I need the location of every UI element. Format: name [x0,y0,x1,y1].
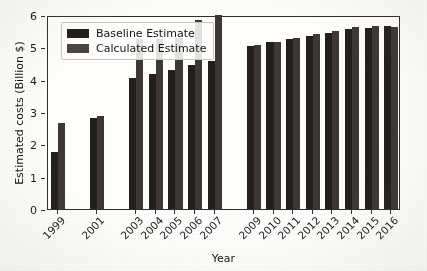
bar-2005-baseline [168,70,175,209]
y-tick-label: 3 [30,107,37,120]
bar-2004-calculated [156,39,163,209]
bar-2001-calculated [97,116,104,209]
bar-2016-baseline [384,26,391,209]
bar-2015-calculated [372,26,379,209]
bar-2009-calculated [254,45,261,209]
x-axis-title: Year [47,252,400,265]
legend-swatch-baseline-icon [67,29,89,38]
bar-2015-baseline [365,28,372,209]
plot-area: Baseline Estimate Calculated Estimate [47,16,400,210]
y-tick-label: 1 [30,171,37,184]
y-tick-label: 4 [30,74,37,87]
bar-2007-baseline [208,61,215,209]
bar-2013-baseline [325,33,332,209]
x-tick-label: 2001 [75,214,106,245]
legend-item: Calculated Estimate [67,41,206,56]
y-tick-mark [41,16,45,17]
bar-2007-calculated [215,15,222,209]
bar-2012-baseline [306,36,313,209]
bar-2003-baseline [129,78,136,209]
y-tick-mark [41,145,45,146]
bar-2004-baseline [149,74,156,209]
bar-2011-baseline [286,39,293,209]
bar-2009-baseline [247,46,254,209]
y-tick-label: 0 [30,204,37,217]
y-tick-mark [41,178,45,179]
bar-2003-calculated [136,39,143,209]
bar-2011-calculated [293,38,300,209]
bar-2006-baseline [188,65,195,209]
y-axis-tick-labels: 0123456 [0,16,45,210]
bar-2010-baseline [266,42,273,209]
y-tick-mark [41,81,45,82]
legend-label-calculated: Calculated Estimate [96,43,206,54]
y-tick-label: 2 [30,139,37,152]
bar-2012-calculated [313,34,320,209]
bar-2014-calculated [352,27,359,209]
legend-label-baseline: Baseline Estimate [96,28,195,39]
y-tick-label: 6 [30,10,37,23]
bar-1999-calculated [58,123,65,209]
bar-2014-baseline [345,29,352,209]
bar-2013-calculated [332,31,339,209]
x-tick-label: 1999 [36,214,67,245]
bar-2016-calculated [391,27,398,209]
bar-chart-figure: Estimated costs (Billion $) 0123456 Base… [0,0,427,271]
y-tick-mark [41,210,45,211]
y-tick-mark [41,113,45,114]
chart-legend: Baseline Estimate Calculated Estimate [61,22,214,60]
legend-item: Baseline Estimate [67,26,206,41]
y-tick-label: 5 [30,42,37,55]
bar-2001-baseline [90,118,97,209]
y-tick-mark [41,48,45,49]
bar-1999-baseline [51,152,58,209]
x-axis-tick-labels: 1999200120032004200520062007200920102011… [47,214,400,256]
bar-2005-calculated [175,38,182,209]
bar-2010-calculated [274,42,281,209]
legend-swatch-calculated-icon [67,44,89,53]
